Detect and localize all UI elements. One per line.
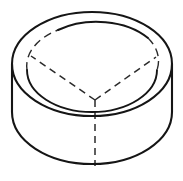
disc-body-fill xyxy=(12,12,172,164)
disc-line-drawing xyxy=(0,0,183,181)
figure-canvas xyxy=(0,0,183,181)
